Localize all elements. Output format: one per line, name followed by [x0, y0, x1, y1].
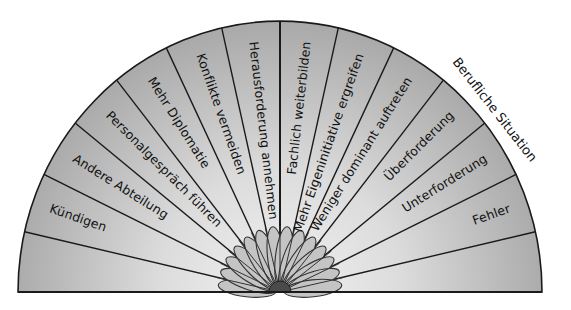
fan-chart: KündigenAndere AbteilungPersonalgespräch…: [0, 0, 571, 310]
semicircle-fan-diagram: KündigenAndere AbteilungPersonalgespräch…: [0, 0, 571, 310]
